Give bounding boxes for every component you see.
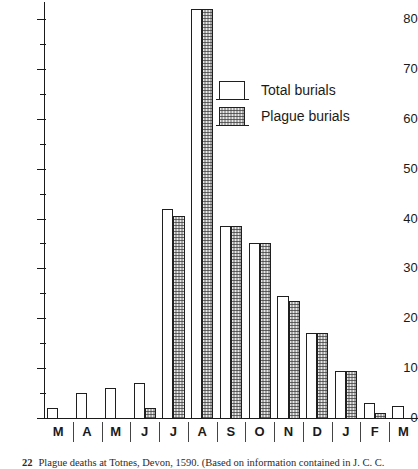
x-axis-label-11-F: F xyxy=(360,419,389,449)
legend-label-plague-burials: Plague burials xyxy=(261,104,350,128)
bar-total-M-12 xyxy=(392,406,403,418)
legend-item-plague-burials: Plague burials xyxy=(219,104,379,130)
bar-plague-N-8 xyxy=(289,301,300,418)
x-axis-separator-9 xyxy=(303,422,304,442)
x-axis-label-3-J: J xyxy=(130,419,159,449)
x-axis-label-10-J: J xyxy=(332,419,361,449)
x-axis-label-12-M: M xyxy=(389,419,418,449)
bar-total-N-8 xyxy=(277,296,288,418)
x-axis-separator-5 xyxy=(188,422,189,442)
bar-plague-S-6 xyxy=(231,226,242,418)
bar-plague-A-5 xyxy=(202,9,213,418)
x-axis-separator-1 xyxy=(73,422,74,442)
x-axis-separator-11 xyxy=(360,422,361,442)
bar-plague-F-11 xyxy=(375,413,386,418)
bar-total-F-11 xyxy=(364,403,375,418)
x-axis-separator-6 xyxy=(217,422,218,442)
bar-plague-J-10 xyxy=(346,371,357,418)
x-axis-separator-7 xyxy=(245,422,246,442)
x-axis-label-6-S: S xyxy=(217,419,246,449)
legend-baseline-plague xyxy=(216,125,249,126)
x-axis-label-0-M: M xyxy=(44,419,73,449)
bar-total-M-0 xyxy=(47,408,58,418)
bar-total-M-2 xyxy=(105,388,116,418)
bar-total-J-10 xyxy=(335,371,346,418)
bar-plague-J-3 xyxy=(145,408,156,418)
x-axis-label-9-D: D xyxy=(303,419,332,449)
x-axis-separator-3 xyxy=(130,422,131,442)
bar-total-D-9 xyxy=(306,333,317,418)
x-axis-separator-2 xyxy=(102,422,103,442)
x-axis-separator-4 xyxy=(159,422,160,442)
legend-label-total-burials: Total burials xyxy=(261,78,336,102)
bar-plague-O-7 xyxy=(260,243,271,418)
bar-plague-D-9 xyxy=(317,333,328,418)
figure-caption-text: Plague deaths at Totnes, Devon, 1590. (B… xyxy=(39,457,385,468)
x-axis-label-5-A: A xyxy=(188,419,217,449)
x-axis-label-1-A: A xyxy=(73,419,102,449)
x-axis-separator-8 xyxy=(274,422,275,442)
x-axis-separator-10 xyxy=(332,422,333,442)
figure-number: 22 xyxy=(22,457,33,468)
bar-total-S-6 xyxy=(220,226,231,418)
x-axis-label-7-O: O xyxy=(245,419,274,449)
legend-item-total-burials: Total burials xyxy=(219,78,379,104)
chart-legend: Total burials Plague burials xyxy=(219,78,379,130)
bar-total-A-5 xyxy=(191,9,202,418)
legend-swatch-total-burials xyxy=(219,81,245,99)
bar-plague-J-4 xyxy=(173,216,184,418)
x-axis-label-2-M: M xyxy=(102,419,131,449)
x-axis-label-4-J: J xyxy=(159,419,188,449)
bar-total-O-7 xyxy=(249,243,260,418)
bar-total-J-4 xyxy=(162,209,173,418)
figure-caption: 22Plague deaths at Totnes, Devon, 1590. … xyxy=(22,457,414,469)
legend-swatch-plague-burials xyxy=(219,107,245,125)
legend-baseline-total xyxy=(216,99,249,100)
x-axis-month-labels: MAMJJASONDJFM xyxy=(44,419,418,449)
bar-total-J-3 xyxy=(134,383,145,418)
bar-total-A-1 xyxy=(76,393,87,418)
x-axis-separator-12 xyxy=(389,422,390,442)
bars-layer xyxy=(44,0,418,419)
x-axis-label-8-N: N xyxy=(274,419,303,449)
